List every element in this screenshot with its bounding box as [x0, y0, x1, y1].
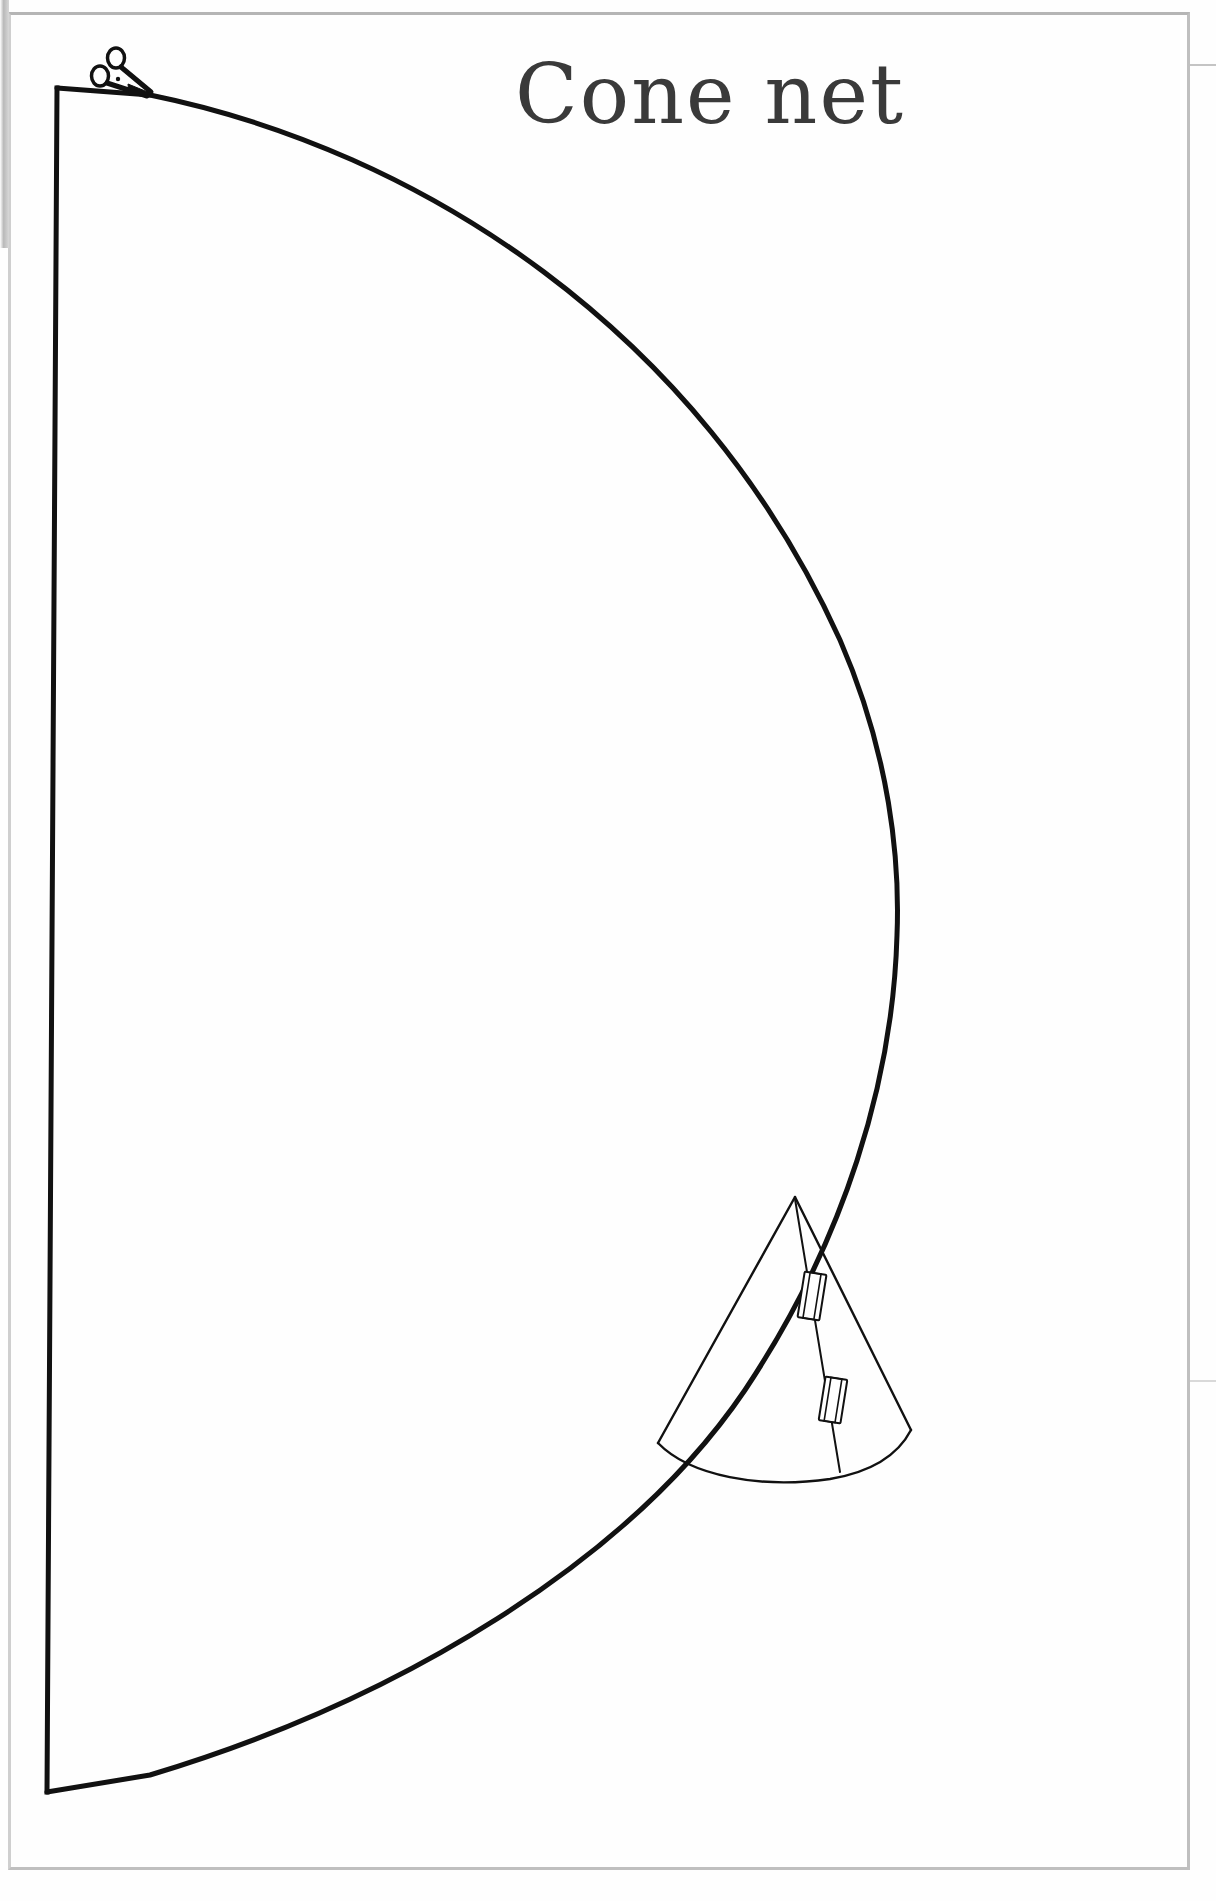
scissors-icon: [92, 48, 156, 96]
cone-tape-tab-upper: [798, 1272, 827, 1321]
page-title: Cone net: [410, 48, 1010, 142]
worksheet-page: Cone net: [0, 0, 1216, 1901]
cone-net-semicircle: [47, 88, 897, 1792]
cone-left-side: [658, 1197, 795, 1443]
net-straight-edge: [47, 88, 57, 1792]
cone-tape-tab-lower: [819, 1377, 848, 1424]
net-arc-edge: [47, 95, 897, 1792]
tape-tab-lower-outer: [819, 1377, 848, 1424]
scissors-pivot: [116, 77, 120, 81]
tape-tab-upper-outer: [798, 1272, 827, 1321]
cone-net-artwork: [0, 0, 1216, 1901]
assembled-cone-illustration: [658, 1197, 911, 1482]
